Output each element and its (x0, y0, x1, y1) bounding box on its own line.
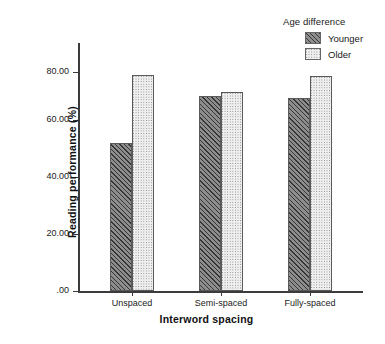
plot-area: .00 20.00 40.00 60.00 80.00 Unspaced Sem… (78, 43, 363, 292)
y-tick-label-4: 80.00 (46, 66, 69, 76)
legend-title: Age difference (283, 16, 383, 27)
bar-younger-unspaced (110, 143, 132, 291)
x-tick-label-unspaced: Unspaced (112, 298, 153, 308)
legend-label-younger: Younger (328, 33, 363, 44)
bar-older-unspaced (132, 75, 154, 291)
bar-chart-figure: Age difference Younger Older .00 20.00 4… (0, 0, 385, 344)
x-tick-label-fully-spaced: Fully-spaced (284, 298, 335, 308)
bar-younger-fully-spaced (288, 98, 310, 291)
y-axis-line (78, 43, 80, 292)
y-tick-4: 80.00 (73, 72, 78, 73)
bar-younger-semi-spaced (199, 96, 221, 291)
x-tick-0 (132, 292, 133, 296)
y-tick-0: .00 (73, 291, 78, 292)
y-tick-label-0: .00 (56, 285, 69, 295)
y-axis-title: Reading performance (%) (66, 106, 78, 238)
bar-older-semi-spaced (221, 92, 243, 291)
bar-older-fully-spaced (310, 76, 332, 291)
x-tick-2 (310, 292, 311, 296)
x-tick-label-semi-spaced: Semi-spaced (195, 298, 248, 308)
x-tick-1 (221, 292, 222, 296)
x-axis-title: Interword spacing (0, 313, 385, 325)
